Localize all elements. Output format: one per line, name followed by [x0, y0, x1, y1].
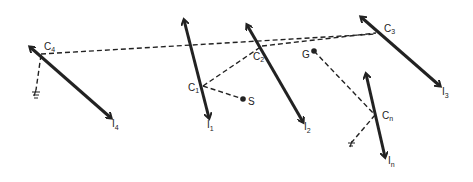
label-i3: I3	[442, 86, 449, 99]
point-s	[240, 96, 246, 102]
arrow-i1	[184, 20, 209, 118]
arrow-i4	[30, 47, 111, 118]
link-c1-s	[203, 86, 243, 99]
link-cn-ground	[352, 115, 375, 142]
dashed-links	[36, 33, 376, 142]
contact-diagram: C4 I4 C1 I1 C2 I2 C3 I3 Cn In S G	[0, 0, 473, 182]
arrow-i3	[361, 17, 440, 86]
link-c4-ground	[36, 55, 41, 90]
point-g	[311, 48, 317, 54]
ground-icon	[32, 90, 40, 98]
label-in: In	[388, 155, 395, 168]
label-c4: C4	[44, 41, 55, 53]
label-cn: Cn	[382, 110, 393, 122]
ground-icon	[348, 141, 355, 147]
link-g-cn	[314, 51, 375, 115]
label-i1: I1	[207, 119, 214, 132]
link-c4-c3	[41, 34, 376, 54]
label-i2: I2	[304, 121, 311, 134]
label-s: S	[248, 96, 255, 107]
label-c1: C1	[188, 82, 199, 94]
label-g: G	[302, 49, 310, 60]
label-i4: I4	[112, 118, 119, 131]
arrows	[30, 17, 440, 157]
link-c2-c3	[262, 33, 376, 46]
label-c3: C3	[384, 23, 395, 35]
